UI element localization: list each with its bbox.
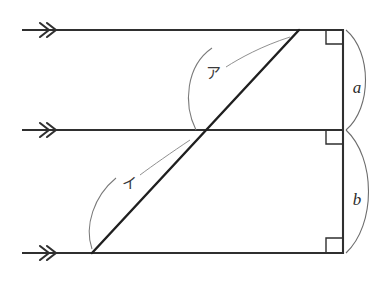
right-angle-middle-icon <box>326 130 342 144</box>
label-angle-lower: イ <box>122 174 137 192</box>
right-angle-top-icon <box>326 30 342 44</box>
right-angle-bottom-icon <box>326 238 342 252</box>
geometry-diagram: a b ア イ <box>0 0 389 284</box>
angle-arc-lower-leader <box>140 140 190 175</box>
angle-arc-upper-leader <box>226 37 290 67</box>
label-angle-upper: ア <box>206 64 221 82</box>
angle-arc-upper <box>188 48 212 130</box>
label-side-a: a <box>353 78 362 97</box>
label-side-b: b <box>353 190 362 209</box>
diagram-canvas: a b ア イ <box>0 0 389 284</box>
diagonal-transversal <box>92 30 299 253</box>
angle-arc-lower <box>89 178 116 249</box>
parallel-lines-group <box>22 30 343 253</box>
